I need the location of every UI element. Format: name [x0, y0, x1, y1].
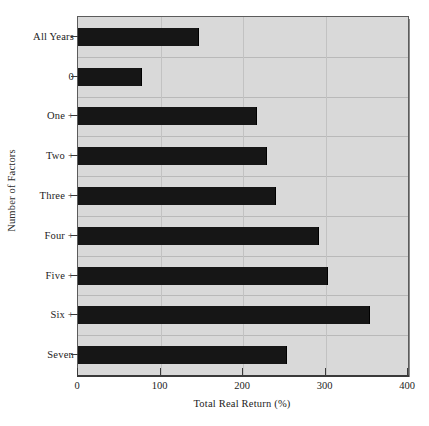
- y-axis-title: Number of Factors: [0, 0, 22, 380]
- bar: [78, 68, 142, 86]
- bar: [78, 107, 257, 125]
- y-axis-tick-mark: [71, 115, 78, 116]
- y-axis-tick-mark: [71, 195, 78, 196]
- y-axis-tick-mark: [71, 354, 78, 355]
- bar: [78, 267, 328, 285]
- plot-area: [77, 16, 409, 376]
- x-axis-line: [77, 375, 409, 377]
- bar: [78, 346, 287, 364]
- bar: [78, 28, 199, 46]
- x-axis-tick-label: 100: [152, 380, 168, 391]
- x-axis-tick-mark: [325, 368, 326, 376]
- x-axis-tick-mark: [160, 368, 161, 376]
- y-axis-tick-label: Four +: [24, 229, 74, 240]
- y-axis-tick-label: 0: [24, 70, 74, 81]
- y-axis-tick-label: Six +: [24, 309, 74, 320]
- x-axis-tick-label: 200: [234, 380, 250, 391]
- bar: [78, 306, 370, 324]
- x-axis-tick-mark: [242, 368, 243, 376]
- x-axis-title: Total Real Return (%): [77, 398, 407, 409]
- x-axis-tick-label: 0: [74, 380, 79, 391]
- y-axis-tick-label: Five +: [24, 269, 74, 280]
- bar-chart-figure: Number of Factors All Years0One +Two +Th…: [0, 0, 429, 426]
- bar: [78, 187, 276, 205]
- y-axis-tick-mark: [71, 275, 78, 276]
- y-axis-tick-mark: [71, 36, 78, 37]
- x-axis-tick-mark: [407, 368, 408, 376]
- bar: [78, 147, 267, 165]
- y-axis-tick-label: Seven: [24, 349, 74, 360]
- y-axis-tick-mark: [71, 76, 78, 77]
- bar: [78, 227, 319, 245]
- x-axis-tick-label: 300: [317, 380, 333, 391]
- y-axis-tick-label: All Years: [24, 30, 74, 41]
- y-axis-tick-label: Two +: [24, 150, 74, 161]
- y-axis-title-text: Number of Factors: [6, 149, 17, 232]
- x-axis-tick-mark: [77, 368, 78, 376]
- y-axis-tick-label: One +: [24, 110, 74, 121]
- y-axis-tick-mark: [71, 314, 78, 315]
- y-axis-tick-label: Three +: [24, 190, 74, 201]
- y-axis-tick-mark: [71, 155, 78, 156]
- plot-inner: [78, 17, 408, 375]
- x-axis-tick-label: 400: [399, 380, 415, 391]
- y-axis-tick-mark: [71, 235, 78, 236]
- y-axis-tick-labels: All Years0One +Two +Three +Four +Five +S…: [24, 16, 74, 374]
